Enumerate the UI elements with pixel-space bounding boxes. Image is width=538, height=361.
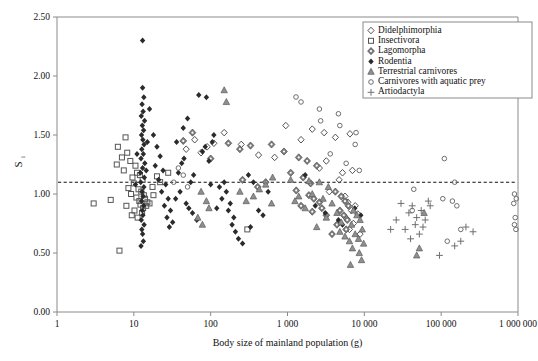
data-point	[314, 224, 320, 230]
data-point	[140, 137, 145, 143]
data-point	[250, 193, 256, 199]
dotted-diamond-center	[313, 198, 315, 200]
data-point	[224, 189, 229, 195]
data-point	[183, 146, 189, 153]
data-point	[353, 142, 358, 147]
dotted-diamond-center	[347, 205, 349, 207]
data-point	[416, 231, 423, 238]
data-point	[138, 156, 143, 162]
data-point	[191, 172, 196, 178]
data-point	[458, 227, 463, 232]
data-point	[349, 167, 355, 174]
dotted-diamond-center	[334, 191, 336, 193]
data-point	[436, 252, 443, 259]
data-point	[402, 226, 409, 233]
data-point	[411, 187, 416, 192]
data-point	[344, 161, 349, 166]
data-point	[260, 212, 265, 218]
data-point	[269, 174, 275, 180]
data-point	[320, 195, 326, 201]
dotted-diamond-center	[249, 145, 251, 147]
data-point	[160, 167, 165, 173]
legend-item-label: Didelphimorphia	[378, 25, 442, 35]
data-point	[313, 162, 320, 169]
data-point	[151, 193, 156, 198]
scatter-plot-figure: 0.000.501.001.502.002.50Si1101001 00010 …	[0, 0, 538, 361]
data-point	[455, 204, 460, 209]
data-point	[140, 38, 145, 44]
data-point	[166, 170, 171, 175]
data-point	[332, 188, 339, 195]
data-point	[147, 106, 152, 112]
data-point	[422, 217, 429, 224]
x-axis-title: Body size of mainland population (g)	[213, 337, 363, 349]
data-point	[298, 136, 304, 143]
x-axis: 1101001 00010 000100 0001 000 000Body si…	[55, 312, 538, 349]
dotted-diamond-center	[321, 207, 323, 209]
data-point	[336, 111, 341, 116]
data-point	[256, 208, 261, 214]
data-point	[214, 205, 219, 211]
data-point	[153, 163, 158, 169]
data-point	[248, 224, 253, 230]
x-tick-label: 10	[129, 319, 139, 329]
data-point	[157, 153, 162, 159]
y-axis: 0.000.501.001.502.002.50	[33, 12, 57, 317]
data-point	[179, 160, 184, 166]
legend-item-label: Artiodactyla	[378, 86, 424, 96]
x-tick-label: 1	[55, 319, 60, 329]
dotted-diamond-center	[346, 219, 348, 221]
data-point	[325, 184, 331, 190]
data-point	[323, 158, 329, 165]
data-point	[236, 236, 241, 242]
data-point	[141, 151, 146, 157]
data-point	[185, 115, 190, 121]
data-point	[181, 173, 186, 178]
legend-item-label: Rodentia	[378, 56, 412, 66]
data-point	[142, 160, 147, 166]
data-point	[512, 222, 517, 227]
data-point	[283, 122, 289, 129]
data-point	[237, 188, 243, 194]
data-point	[420, 224, 427, 231]
data-point	[141, 238, 146, 244]
data-point	[329, 200, 335, 206]
data-point	[321, 129, 327, 136]
stray-aquatic-marker	[294, 95, 299, 100]
dotted-diamond-center	[345, 228, 347, 230]
data-point	[281, 148, 288, 155]
data-point	[228, 200, 233, 206]
data-point	[195, 214, 201, 220]
data-point	[268, 141, 275, 148]
dotted-diamond-center	[298, 156, 300, 158]
dotted-diamond-center	[370, 50, 372, 52]
legend-item-carnivores-with-aquatic-prey[interactable]: Carnivores with aquatic prey	[369, 76, 486, 86]
data-point	[450, 199, 455, 204]
chart-canvas: 0.000.501.001.502.002.50Si1101001 00010 …	[0, 0, 538, 361]
data-point	[337, 228, 343, 234]
data-point	[512, 192, 517, 197]
data-point	[251, 179, 256, 185]
data-point	[348, 221, 354, 227]
data-point	[347, 261, 353, 267]
data-point	[338, 123, 343, 128]
legend-item-didelphimorphia[interactable]: Didelphimorphia	[368, 25, 442, 35]
y-tick-label: 1.00	[33, 189, 50, 199]
data-point	[133, 163, 138, 168]
data-point	[265, 189, 270, 195]
dotted-diamond-center	[227, 142, 229, 144]
data-point	[221, 179, 226, 185]
data-point	[272, 154, 278, 161]
data-point	[225, 140, 232, 147]
legend-item-terrestrial-carnivores[interactable]: Terrestrial carnivores	[368, 66, 458, 76]
y-tick-label: 1.50	[33, 130, 50, 140]
data-point	[121, 168, 126, 173]
data-point	[398, 200, 405, 207]
data-point	[138, 179, 143, 185]
data-point	[233, 229, 238, 235]
data-point	[309, 126, 315, 133]
data-point	[190, 210, 195, 216]
data-point	[154, 144, 159, 150]
data-point	[221, 87, 227, 93]
dotted-diamond-center	[241, 179, 243, 181]
